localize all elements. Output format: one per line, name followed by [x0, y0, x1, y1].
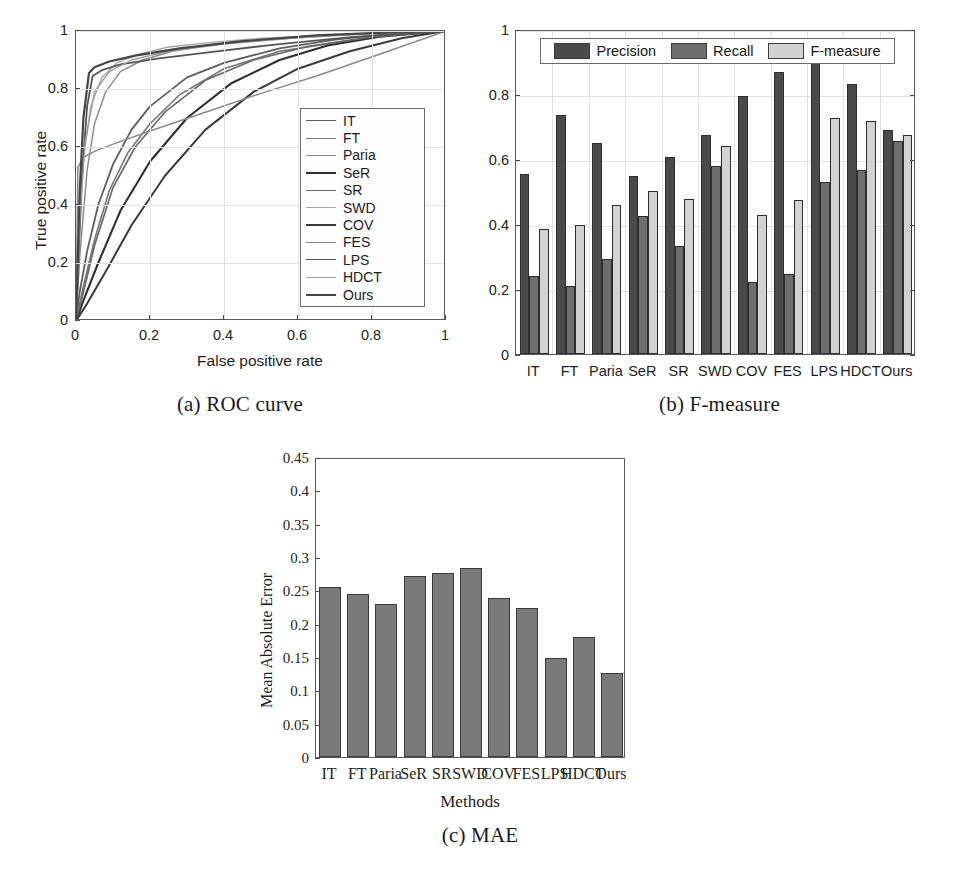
fmeasure-bar-fes-precision [774, 72, 784, 354]
fmeasure-bar-paria-precision [592, 143, 602, 354]
fmeasure-gridline-v [698, 31, 699, 354]
roc-gridline-h [76, 89, 444, 90]
fmeasure-y-tick-label: 0 [467, 347, 509, 363]
roc-gridline-v [224, 31, 225, 319]
fmeasure-bar-hdct-f-measure [866, 121, 876, 354]
fmeasure-y-tick-label: 0.8 [467, 87, 509, 103]
mae-y-tick-label: 0.05 [259, 716, 309, 733]
fmeasure-category-label: SWD [698, 363, 732, 379]
roc-y-tick [75, 204, 80, 205]
mae-category-label: Paria [369, 765, 402, 783]
fmeasure-bar-ft-precision [556, 115, 566, 354]
panel-f-measure: ITFTPariaSeRSRSWDCOVFESLPSHDCTOurs00.20.… [480, 0, 959, 430]
mae-bar-it [319, 587, 341, 757]
mae-bar-hdct [573, 637, 595, 757]
roc-x-tick [297, 315, 298, 320]
fmeasure-bar-paria-f-measure [612, 205, 622, 354]
panel-c-caption: (c) MAE [200, 823, 760, 848]
fmeasure-category-label: Ours [881, 363, 912, 379]
mae-y-tick [315, 725, 320, 726]
fmeasure-y-tick [515, 95, 520, 96]
fmeasure-y-tick-right [910, 355, 915, 356]
mae-bar-ser [404, 576, 426, 757]
fmeasure-y-tick-label: 1 [467, 22, 509, 38]
mae-category-label: IT [322, 765, 337, 783]
mae-bar-ft [347, 594, 369, 757]
roc-y-tick [75, 262, 80, 263]
fmeasure-gridline-v [807, 31, 808, 354]
mae-category-label: COV [481, 765, 515, 783]
roc-legend-line-swatch [306, 120, 336, 121]
roc-legend-line-swatch [306, 242, 336, 243]
fmeasure-bar-ft-f-measure [575, 225, 585, 354]
mae-y-tick [315, 491, 320, 492]
fmeasure-bar-lps-recall [820, 182, 830, 354]
fmeasure-legend-label: Recall [713, 43, 753, 59]
roc-legend: ITFTPariaSeRSRSWDCOVFESLPSHDCTOurs [300, 108, 425, 307]
fmeasure-gridline-v [589, 31, 590, 354]
mae-y-tick [315, 558, 320, 559]
mae-y-tick [315, 691, 320, 692]
roc-x-tick [223, 315, 224, 320]
fmeasure-legend-item-f-measure: F-measure [768, 43, 880, 59]
fmeasure-bar-sr-precision [665, 157, 675, 354]
roc-legend-label: SR [343, 183, 362, 197]
roc-y-tick-label: 1 [23, 22, 68, 38]
roc-legend-item-swd: SWD [306, 199, 418, 216]
mae-y-tick-label: 0.3 [259, 550, 309, 567]
mae-bar-swd [460, 568, 482, 757]
fmeasure-bar-sr-recall [675, 246, 685, 354]
fmeasure-gridline-v [880, 31, 881, 354]
roc-legend-label: SWD [343, 201, 376, 215]
fmeasure-y-tick [515, 160, 520, 161]
fmeasure-legend: PrecisionRecallF-measure [540, 38, 895, 64]
mae-bar-sr [432, 573, 454, 757]
roc-gridline-v [298, 31, 299, 319]
roc-legend-label: HDCT [343, 270, 382, 284]
roc-y-tick [75, 320, 80, 321]
roc-gridline-h [76, 31, 444, 32]
panel-b-caption: (b) F-measure [480, 392, 959, 417]
fmeasure-category-label: COV [736, 363, 767, 379]
fmeasure-bar-ours-f-measure [903, 135, 913, 354]
fmeasure-bar-swd-precision [701, 135, 711, 354]
roc-y-axis-title: True positive rate [32, 131, 50, 250]
mae-category-label: SR [432, 765, 452, 783]
roc-legend-label: SeR [343, 166, 370, 180]
roc-legend-item-lps: LPS [306, 251, 418, 268]
fmeasure-bar-ft-recall [566, 286, 576, 354]
fmeasure-legend-label: F-measure [810, 43, 880, 59]
fmeasure-bar-paria-recall [602, 259, 612, 354]
roc-legend-line-swatch [306, 172, 336, 174]
figure-root: 00.20.40.60.8100.20.40.60.81 False posit… [0, 0, 959, 870]
roc-legend-label: FES [343, 235, 370, 249]
roc-legend-label: IT [343, 114, 355, 128]
fmeasure-gridline-v [662, 31, 663, 354]
fmeasure-bar-hdct-recall [857, 170, 867, 354]
fmeasure-bar-ser-f-measure [648, 191, 658, 354]
roc-legend-line-swatch [306, 207, 336, 208]
fmeasure-gridline-v [734, 31, 735, 354]
roc-legend-line-swatch [306, 259, 336, 260]
fmeasure-category-label: SeR [628, 363, 656, 379]
fmeasure-bar-ours-precision [883, 130, 893, 354]
fmeasure-bar-cov-f-measure [757, 215, 767, 354]
mae-x-axis-title: Methods [440, 792, 500, 812]
fmeasure-bar-cov-recall [748, 282, 758, 354]
fmeasure-bar-it-recall [529, 276, 539, 354]
fmeasure-category-label: SR [669, 363, 689, 379]
roc-y-tick [75, 30, 80, 31]
mae-y-axis-title: Mean Absolute Error [258, 573, 276, 708]
mae-y-tick-label: 0.45 [259, 450, 309, 467]
roc-legend-line-swatch [306, 277, 336, 278]
roc-x-tick [371, 315, 372, 320]
fmeasure-bar-swd-recall [711, 166, 721, 355]
roc-legend-item-fes: FES [306, 234, 418, 251]
fmeasure-bar-sr-f-measure [684, 199, 694, 354]
roc-legend-item-it: IT [306, 112, 418, 129]
roc-x-tick-label: 0.4 [213, 327, 233, 343]
roc-y-tick-label: 0.2 [23, 254, 68, 270]
roc-y-tick-label: 0 [23, 312, 68, 328]
fmeasure-gridline-v [625, 31, 626, 354]
roc-x-tick [149, 315, 150, 320]
